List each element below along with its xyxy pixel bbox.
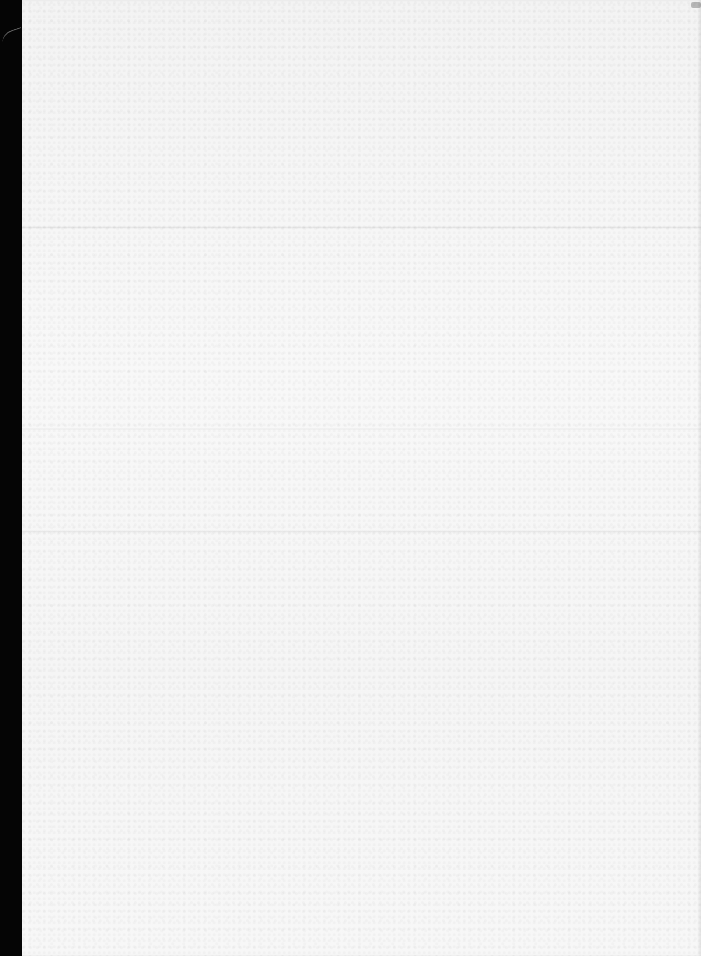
scanner-edge — [0, 0, 22, 956]
fold-line — [22, 226, 701, 229]
fold-line — [22, 530, 701, 533]
corner-mark — [691, 2, 701, 8]
blank-page — [22, 0, 701, 956]
fold-line — [22, 428, 701, 430]
